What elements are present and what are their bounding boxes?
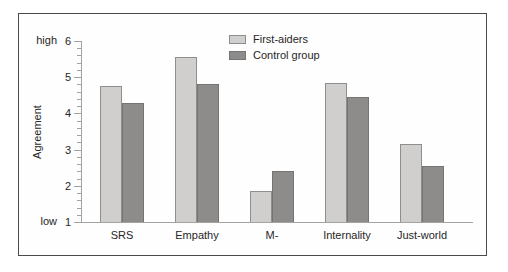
y-axis-minor-tick [77,171,81,172]
y-axis-minor-tick [77,200,81,201]
bar-control-group [347,97,369,222]
y-axis-minor-tick [77,106,81,107]
y-axis-minor-tick [77,135,81,136]
figure-frame: Agreement high low First-aiders Control … [18,13,487,256]
y-axis-title: Agreement [31,105,43,159]
y-axis-minor-tick [77,92,81,93]
x-axis-line [81,222,473,223]
bar-control-group [122,103,144,222]
y-axis-minor-tick [77,48,81,49]
y-axis-major-tick [74,77,81,78]
legend-label-first-aiders: First-aiders [253,34,308,45]
y-axis-minor-tick [77,84,81,85]
y-axis-minor-tick [77,128,81,129]
y-axis-minor-tick [77,215,81,216]
y-axis-minor-tick [77,164,81,165]
y-axis-line [81,41,82,223]
y-axis-minor-tick [77,99,81,100]
first-aiders-swatch-icon [229,35,246,44]
y-axis-tick-label: 2 [53,180,71,193]
y-axis-tick-label: 6 [53,35,71,48]
bar-control-group [272,171,294,222]
bar-first-aiders [250,191,272,222]
y-axis-minor-tick [77,70,81,71]
y-axis-minor-tick [77,208,81,209]
bar-control-group [422,166,444,222]
bar-control-group [197,84,219,222]
bar-first-aiders [175,57,197,222]
y-axis-tick-label: 1 [53,216,71,229]
bar-first-aiders [325,83,347,222]
y-axis-major-tick [74,150,81,151]
y-axis-minor-tick [77,63,81,64]
legend-label-control-group: Control group [253,50,320,61]
y-axis-minor-tick [77,157,81,158]
y-axis-minor-tick [77,179,81,180]
y-axis-minor-tick [77,142,81,143]
y-axis-minor-tick [77,193,81,194]
y-axis-minor-tick [77,121,81,122]
y-axis-tick-label: 3 [53,144,71,157]
x-axis-category-label: Just-world [377,229,467,242]
y-axis-major-tick [74,186,81,187]
legend-item-control-group: Control group [229,50,320,61]
bar-first-aiders [100,86,122,222]
y-axis-tick-label: 4 [53,107,71,120]
control-group-swatch-icon [229,51,246,60]
y-axis-minor-tick [77,55,81,56]
y-axis-major-tick [74,41,81,42]
y-axis-major-tick [74,222,81,223]
bar-first-aiders [400,144,422,222]
legend: First-aiders Control group [229,34,320,61]
y-axis-tick-label: 5 [53,71,71,84]
y-axis-major-tick [74,113,81,114]
legend-item-first-aiders: First-aiders [229,34,320,45]
